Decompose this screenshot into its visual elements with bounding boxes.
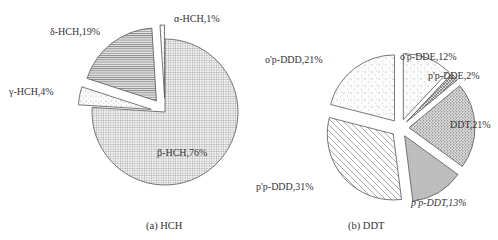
slice-label-pp-ddd: p'p-DDD,31% xyxy=(256,181,314,192)
slice-label-gamma-hch: γ-HCH,4% xyxy=(8,86,54,97)
pie-slice--hch xyxy=(160,25,165,98)
pie-slice-o-p-ddd xyxy=(331,55,395,121)
pie-chart-hch xyxy=(78,25,238,185)
slice-label-op-ddd: o'p-DDD,21% xyxy=(265,54,323,65)
caption-hch: (a) HCH xyxy=(146,220,183,232)
caption-ddt: (b) DDT xyxy=(348,220,385,232)
figure: α-HCH,1% δ-HCH,19% γ-HCH,4% β-HCH,76% o'… xyxy=(0,0,498,240)
pie-slice-p-p-ddd xyxy=(327,118,401,200)
slice-label-op-dde: o'p-DDE,12% xyxy=(400,51,457,62)
slice-label-beta-hch: β-HCH,76% xyxy=(157,147,207,158)
slice-label-pp-ddt: p'p-DDT,13% xyxy=(410,197,467,208)
pie-slice--hch xyxy=(87,28,156,101)
slice-label-delta-hch: δ-HCH,19% xyxy=(50,26,100,37)
slice-label-ddt: DDT,21% xyxy=(450,119,491,130)
slice-label-alpha-hch: α-HCH,1% xyxy=(174,13,220,24)
slice-label-pp-dde: p'p-DDE,2% xyxy=(428,70,480,81)
